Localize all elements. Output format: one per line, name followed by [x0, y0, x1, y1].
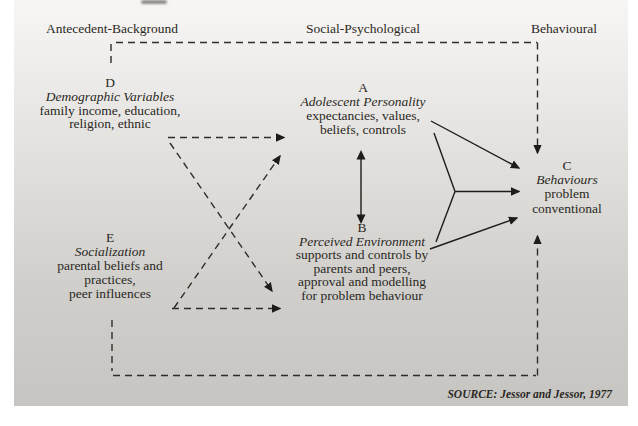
box-c-letter: C	[517, 159, 617, 173]
box-b-title: Perceived Environment	[277, 235, 447, 249]
box-c-line: conventional	[517, 202, 617, 216]
box-d-title: Demographic Variables	[20, 90, 200, 104]
box-a-letter: A	[278, 81, 448, 95]
box-e-letter: E	[20, 231, 200, 245]
box-c-line: problem	[517, 187, 617, 201]
box-b-line: supports and controls by	[277, 248, 447, 262]
box-a-title: Adolescent Personality	[278, 95, 448, 109]
box-b-line: for problem behaviour	[277, 289, 447, 303]
box-a-adolescent-personality: A Adolescent Personality expectancies, v…	[278, 81, 448, 137]
box-e-line: peer influences	[20, 287, 200, 301]
source-credit: SOURCE: Jessor and Jessor, 1977	[412, 388, 612, 400]
box-e-socialization: E Socialization parental beliefs and pra…	[20, 231, 200, 301]
box-d-letter: D	[20, 76, 200, 90]
column-header-behavioural: Behavioural	[531, 21, 597, 37]
column-header-antecedent-background: Antecedent-Background	[46, 21, 178, 37]
box-e-line: parental beliefs and	[20, 259, 200, 273]
box-b-line: approval and modelling	[277, 275, 447, 289]
box-c-behaviours: C Behaviours problem conventional	[517, 159, 617, 216]
figure-page: Antecedent-Background Social-Psychologic…	[0, 0, 638, 426]
box-b-perceived-environment: B Perceived Environment supports and con…	[277, 221, 447, 303]
box-b-line: parents and peers,	[277, 262, 447, 276]
box-e-title: Socialization	[20, 245, 200, 259]
box-c-title: Behaviours	[517, 173, 617, 187]
box-b-letter: B	[277, 221, 447, 235]
double-arrow-a-b-up-head	[357, 150, 366, 160]
column-header-social-psychological: Social-Psychological	[306, 21, 420, 37]
box-d-line: religion, ethnic	[20, 117, 200, 131]
box-e-line: practices,	[20, 273, 200, 287]
box-a-line: expectancies, values,	[278, 109, 448, 123]
fork-branch-from-a	[434, 133, 455, 192]
box-a-line: beliefs, controls	[278, 123, 448, 137]
box-d-demographic-variables: D Demographic Variables family income, e…	[20, 76, 200, 131]
box-d-line: family income, education,	[20, 104, 200, 118]
